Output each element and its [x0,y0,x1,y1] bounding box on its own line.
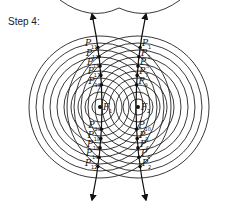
previous-step-arcs [60,0,180,13]
focus-subscript: 1 [109,108,112,114]
point-subscript: 12 [91,164,97,170]
point-subscript: 18 [94,136,100,142]
focus-dot [98,105,102,109]
point-subscript: 19 [94,82,100,88]
point-subscript: 1 [148,44,151,50]
point-subscript: 5 [146,63,149,69]
point-subscript: 20 [94,126,100,132]
focus-subscript: 2 [147,108,150,114]
point-subscript: 15 [93,63,99,69]
hyperbola-construction-diagram: P11P13P15P17P19P20P18P16P14P12P1P3P5P7P9… [0,0,235,214]
point-subscript: 17 [94,72,100,78]
point-subscript: 9 [145,82,148,88]
point-subscript: 2 [148,164,151,170]
point-subscript: 16 [93,145,99,151]
point-subscript: 14 [92,154,98,160]
focus-1: F1 [98,102,112,114]
point-subscript: 7 [145,72,148,78]
point-subscript: 10 [145,126,151,132]
point-subscript: 3 [147,54,150,60]
focus-dot [136,105,140,109]
